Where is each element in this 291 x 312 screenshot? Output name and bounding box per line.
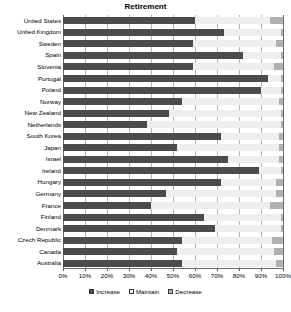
bar-segment-decrease: [281, 167, 283, 174]
category-label: Portugal: [0, 76, 61, 82]
bar-segment-decrease: [279, 144, 283, 151]
bar-segment-decrease: [272, 237, 283, 244]
category-label: Canada: [0, 249, 61, 255]
category-label: Spain: [0, 52, 61, 58]
bar-segment-maintain: [228, 156, 279, 163]
x-tick-mark: [261, 269, 262, 271]
bar-segment-increase: [63, 202, 151, 209]
bar-segment-increase: [63, 190, 166, 197]
plot-area: [63, 15, 283, 269]
category-label: South Korea: [0, 133, 61, 139]
bar-segment-increase: [63, 29, 224, 36]
bar-row: [63, 179, 283, 186]
bar-segment-maintain: [221, 179, 276, 186]
category-label: Israel: [0, 156, 61, 162]
bar-segment-maintain: [259, 167, 281, 174]
category-label: Finland: [0, 214, 61, 220]
category-label: Slovenia: [0, 64, 61, 70]
bar-segment-maintain: [215, 225, 281, 232]
bar-row: [63, 98, 283, 105]
bar-segment-maintain: [182, 260, 277, 267]
legend-swatch-icon: [89, 289, 94, 294]
bar-segment-increase: [63, 87, 261, 94]
bar-segment-decrease: [276, 179, 283, 186]
bar-segment-decrease: [270, 17, 283, 24]
bar-segment-decrease: [281, 110, 283, 117]
legend-label: Maintain: [136, 288, 159, 295]
bar-segment-decrease: [281, 52, 283, 59]
category-axis-labels: United StatesUnited KingdomSwedenSpainSl…: [0, 15, 61, 269]
x-tick-label: 50%: [167, 272, 179, 279]
x-tick-label: 90%: [255, 272, 267, 279]
bar-row: [63, 156, 283, 163]
bar-row: [63, 52, 283, 59]
bar-segment-increase: [63, 17, 195, 24]
legend-item-decrease[interactable]: Decrease: [168, 288, 201, 295]
category-label: Sweden: [0, 41, 61, 47]
bar-segment-increase: [63, 248, 177, 255]
x-tick-mark: [129, 269, 130, 271]
bar-segment-maintain: [169, 110, 281, 117]
bar-segment-maintain: [224, 29, 281, 36]
bar-segment-increase: [63, 167, 259, 174]
bar-segment-decrease: [274, 248, 283, 255]
legend-label: Increase: [96, 288, 120, 295]
legend-swatch-icon: [129, 289, 134, 294]
category-label: Denmark: [0, 226, 61, 232]
bar-row: [63, 75, 283, 82]
bar-row: [63, 225, 283, 232]
bar-row: [63, 260, 283, 267]
gridline-100pct: [283, 15, 284, 269]
x-tick-mark: [63, 269, 64, 271]
bar-segment-decrease: [281, 214, 283, 221]
bar-segment-maintain: [166, 190, 276, 197]
x-tick-mark: [151, 269, 152, 271]
x-tick-label: 60%: [189, 272, 201, 279]
bar-segment-decrease: [276, 260, 283, 267]
bar-segment-decrease: [276, 190, 283, 197]
bar-segment-increase: [63, 237, 182, 244]
bar-segment-maintain: [261, 87, 281, 94]
bar-segment-increase: [63, 260, 182, 267]
bar-segment-decrease: [281, 29, 283, 36]
category-label: United States: [0, 18, 61, 24]
bar-segment-increase: [63, 133, 221, 140]
bar-segment-maintain: [182, 237, 272, 244]
bar-row: [63, 214, 283, 221]
bar-segment-increase: [63, 179, 221, 186]
category-label: United Kingdom: [0, 29, 61, 35]
bar-segment-increase: [63, 98, 182, 105]
bar-segment-decrease: [279, 133, 283, 140]
bar-segment-maintain: [204, 214, 281, 221]
bar-segment-decrease: [279, 98, 283, 105]
bar-segment-maintain: [221, 133, 278, 140]
bar-segment-maintain: [268, 75, 281, 82]
bar-segment-increase: [63, 63, 193, 70]
retirement-stacked-bar-chart: Retirement United StatesUnited KingdomSw…: [0, 0, 291, 312]
bar-segment-increase: [63, 75, 268, 82]
bar-segment-increase: [63, 52, 243, 59]
category-label: Norway: [0, 99, 61, 105]
legend-item-maintain[interactable]: Maintain: [129, 288, 159, 295]
bar-row: [63, 29, 283, 36]
bar-row: [63, 40, 283, 47]
x-tick-mark: [239, 269, 240, 271]
x-tick-label: 70%: [211, 272, 223, 279]
x-tick-label: 80%: [233, 272, 245, 279]
bar-row: [63, 121, 283, 128]
bar-segment-maintain: [177, 144, 278, 151]
bar-segment-decrease: [281, 75, 283, 82]
bar-segment-decrease: [281, 225, 283, 232]
legend-item-increase[interactable]: Increase: [89, 288, 120, 295]
x-tick-label: 100%: [275, 272, 291, 279]
bar-segment-maintain: [195, 17, 270, 24]
bar-segment-maintain: [243, 52, 280, 59]
bar-segment-maintain: [151, 202, 270, 209]
x-tick-mark: [217, 269, 218, 271]
x-tick-mark: [195, 269, 196, 271]
bar-segment-increase: [63, 214, 204, 221]
category-label: Czech Republic: [0, 237, 61, 243]
legend-swatch-icon: [168, 289, 173, 294]
category-label: New Zealand: [0, 110, 61, 116]
bar-row: [63, 202, 283, 209]
